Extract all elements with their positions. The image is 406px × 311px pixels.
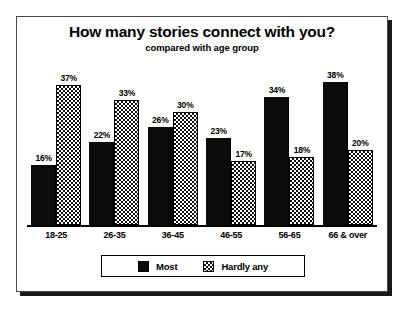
bar-value-label: 20% xyxy=(352,138,368,148)
bar-value-label: 17% xyxy=(235,149,251,159)
bar-value-label: 26% xyxy=(152,115,168,125)
bar-item[interactable]: 22% xyxy=(89,61,114,225)
bar[interactable] xyxy=(323,82,348,225)
chart-screenshot: How many stories connect with you? compa… xyxy=(0,0,406,311)
x-axis-tick-label: 56-65 xyxy=(260,230,318,240)
bar[interactable] xyxy=(289,157,314,225)
x-axis-tick-label: 46-55 xyxy=(202,230,260,240)
legend-item-hardly-any: Hardly any xyxy=(203,261,268,272)
bar[interactable] xyxy=(114,100,139,225)
legend-label-most: Most xyxy=(156,261,177,272)
bar-value-label: 38% xyxy=(327,70,343,80)
title-block: How many stories connect with you? compa… xyxy=(17,24,387,53)
bar-group: 16%37% xyxy=(27,61,85,225)
chart-legend: Most Hardly any xyxy=(101,255,305,277)
bar-value-label: 30% xyxy=(177,100,193,110)
bar-item[interactable]: 33% xyxy=(114,61,139,225)
bar-group: 22%33% xyxy=(85,61,143,225)
legend-swatch-solid-icon xyxy=(138,261,149,272)
bar-value-label: 22% xyxy=(94,130,110,140)
bar[interactable] xyxy=(89,142,114,225)
x-axis-baseline xyxy=(27,225,377,227)
bar-groups: 16%37%22%33%26%30%23%17%34%18%38%20% xyxy=(27,61,377,225)
bar-item[interactable]: 23% xyxy=(206,61,231,225)
bar-value-label: 23% xyxy=(210,126,226,136)
bar-item[interactable]: 26% xyxy=(148,61,173,225)
chart-panel: How many stories connect with you? compa… xyxy=(16,16,388,292)
bar-item[interactable]: 18% xyxy=(289,61,314,225)
bar[interactable] xyxy=(231,161,256,225)
legend-swatch-checkered-icon xyxy=(203,261,214,272)
bar-value-label: 16% xyxy=(35,153,51,163)
bar[interactable] xyxy=(56,85,81,225)
x-axis-tick-labels: 18-2526-3536-4546-5556-6566 & over xyxy=(27,230,377,240)
bar-item[interactable]: 38% xyxy=(323,61,348,225)
bar-item[interactable]: 30% xyxy=(173,61,198,225)
bar[interactable] xyxy=(264,97,289,225)
bar[interactable] xyxy=(148,127,173,225)
x-axis-tick-label: 26-35 xyxy=(85,230,143,240)
bar-item[interactable]: 20% xyxy=(348,61,373,225)
bar-value-label: 34% xyxy=(269,85,285,95)
bar-group: 23%17% xyxy=(202,61,260,225)
bar-group: 34%18% xyxy=(260,61,318,225)
x-axis-tick-label: 18-25 xyxy=(27,230,85,240)
legend-item-most: Most xyxy=(138,261,177,272)
legend-label-hardly-any: Hardly any xyxy=(221,261,268,272)
bar-item[interactable]: 17% xyxy=(231,61,256,225)
bar[interactable] xyxy=(173,112,198,225)
bar-value-label: 18% xyxy=(294,145,310,155)
bar-value-label: 37% xyxy=(60,73,76,83)
plot-area: 16%37%22%33%26%30%23%17%34%18%38%20% xyxy=(27,61,377,225)
bar-item[interactable]: 16% xyxy=(31,61,56,225)
chart-subtitle: compared with age group xyxy=(17,42,387,53)
x-axis-tick-label: 36-45 xyxy=(144,230,202,240)
bar-group: 38%20% xyxy=(319,61,377,225)
bar-group: 26%30% xyxy=(144,61,202,225)
x-axis-tick-label: 66 & over xyxy=(319,230,377,240)
bar[interactable] xyxy=(31,165,56,225)
bar-item[interactable]: 37% xyxy=(56,61,81,225)
bar-value-label: 33% xyxy=(119,88,135,98)
bar[interactable] xyxy=(348,150,373,226)
page-title: How many stories connect with you? xyxy=(17,24,387,40)
bar-item[interactable]: 34% xyxy=(264,61,289,225)
bar[interactable] xyxy=(206,138,231,225)
